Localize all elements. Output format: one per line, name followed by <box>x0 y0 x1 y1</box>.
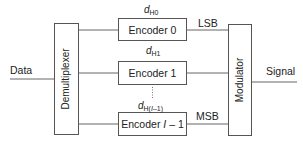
encoder-label-suffix: – 1 <box>166 118 184 130</box>
encoder-0-symbol: dH0 <box>144 4 159 19</box>
encoder-label-prefix: Encoder <box>129 24 171 36</box>
output-label: Signal <box>266 65 295 77</box>
encoder-label-prefix: Encoder <box>121 118 163 130</box>
lsb-label: LSB <box>198 17 218 29</box>
block-diagram: Data Signal Demultiplexer Modulator dH0 … <box>0 0 303 149</box>
encoder-last-symbol: dH(I–1) <box>138 100 163 115</box>
msb-label: MSB <box>196 110 219 122</box>
symbol-subscript-prefix: H( <box>144 105 151 112</box>
symbol-subscript-suffix: –1) <box>153 105 163 112</box>
encoder-label-index: 0 <box>171 24 177 36</box>
symbol-subscript: H1 <box>152 50 161 57</box>
symbol-subscript: H0 <box>150 9 159 16</box>
modulator-label: Modulator <box>234 40 246 120</box>
encoder-1-symbol: dH1 <box>146 45 161 60</box>
encoder-last-label: Encoder I – 1 <box>118 118 187 130</box>
input-label: Data <box>10 64 32 76</box>
encoder-label-prefix: Encoder <box>129 67 171 79</box>
encoder-label-index: 1 <box>171 67 177 79</box>
encoder-1-label: Encoder 1 <box>118 67 187 79</box>
encoder-0-label: Encoder 0 <box>118 24 187 36</box>
symbol-subscript: H(I–1) <box>144 105 163 112</box>
demultiplexer-label: Demultiplexer <box>60 29 72 129</box>
